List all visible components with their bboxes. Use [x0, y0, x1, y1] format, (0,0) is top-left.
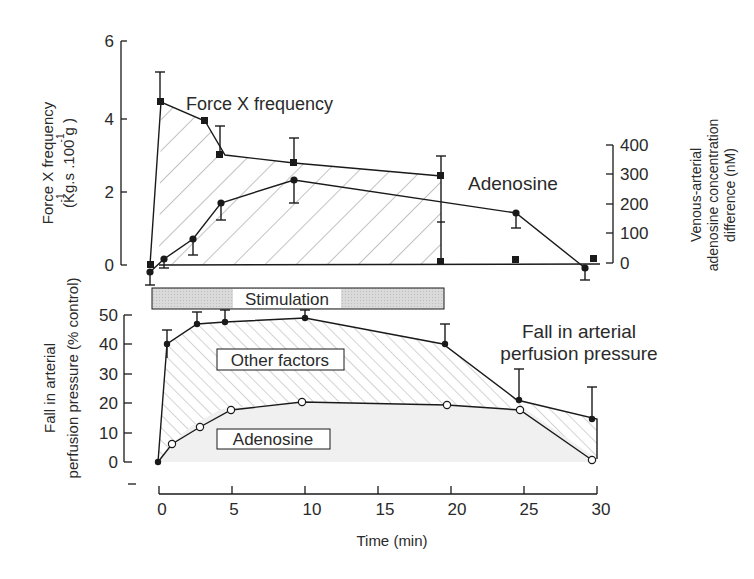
x-ticks: 0 5 10 15 20 25 30	[157, 500, 610, 519]
tick-label: 0	[620, 254, 629, 273]
fall-label-line2: perfusion pressure	[500, 343, 657, 364]
tick-label: 200	[620, 195, 648, 214]
stimulation-label: Stimulation	[245, 290, 329, 309]
tick-label: 100	[620, 224, 648, 243]
axis-title-line2: perfusion pressure (% control)	[64, 278, 81, 479]
other-factors-label: Other factors	[217, 349, 344, 370]
tick-label: 400	[620, 136, 648, 155]
superscript: -1	[55, 133, 66, 142]
tick-label: 6	[105, 32, 114, 51]
bottom-y-axis-title: Fall in arterial perfusion pressure (% c…	[41, 278, 81, 479]
top-right-axis-title: Venous-arterial adenosine concentration …	[688, 119, 738, 272]
chart-figure: 6 4 2 0 Force X frequency (Kg.s .100 g )…	[0, 0, 754, 579]
tick-label: 4	[105, 110, 114, 129]
tick-label: 40	[99, 335, 118, 354]
axis-title-line1: Venous-arterial	[688, 148, 704, 242]
tick-label: 20	[99, 394, 118, 413]
tick-label: 10	[303, 500, 322, 519]
adenosine-region-label: Adenosine	[217, 429, 330, 449]
tick-label: 15	[376, 500, 395, 519]
superscript: -1	[55, 193, 66, 202]
x-axis-title: Time (min)	[356, 532, 427, 549]
tick-label: 30	[592, 500, 611, 519]
axis-title-line2: adenosine concentration	[705, 119, 721, 272]
adenosine-label: Adenosine	[468, 173, 558, 194]
top-left-ticks: 6 4 2 0	[105, 32, 114, 275]
top-right-ticks: 400 300 200 100 0	[620, 136, 648, 273]
axis-title-line1: Fall in arterial	[41, 343, 58, 433]
top-left-axis	[121, 41, 127, 265]
tick-label: 0	[157, 500, 166, 519]
bottom-y-axis	[124, 315, 136, 484]
tick-label: 5	[229, 500, 238, 519]
top-left-axis-title: Force X frequency (Kg.s .100 g ) -1 -1	[39, 101, 77, 224]
stimulation-bar: Stimulation	[152, 288, 444, 309]
top-right-axis	[606, 145, 613, 263]
tick-label: 30	[99, 365, 118, 384]
tick-label: 0	[109, 453, 118, 472]
force-hatched-area	[159, 102, 441, 265]
tick-label: 300	[620, 165, 648, 184]
fall-label-line1: Fall in arterial	[522, 321, 636, 342]
tick-label: 0	[105, 256, 114, 275]
svg-text:Adenosine: Adenosine	[233, 430, 313, 449]
x-axis	[159, 486, 597, 494]
bottom-y-ticks: 50 40 30 20 10 0	[99, 306, 118, 472]
tick-label: 2	[105, 183, 114, 202]
axis-title-line1: Force X frequency	[39, 101, 56, 224]
tick-label: 25	[520, 500, 539, 519]
axis-title-line3: difference (nM)	[722, 148, 738, 242]
tick-label: 10	[99, 424, 118, 443]
force-label: Force X frequency	[186, 94, 333, 114]
svg-text:Other factors: Other factors	[231, 351, 329, 370]
tick-label: 20	[448, 500, 467, 519]
top-baseline	[159, 264, 600, 265]
bottom-panel: 50 40 30 20 10 0 Fall in arterial perfus…	[41, 278, 658, 549]
top-panel: 6 4 2 0 Force X frequency (Kg.s .100 g )…	[39, 32, 738, 285]
tick-label: 50	[99, 306, 118, 325]
